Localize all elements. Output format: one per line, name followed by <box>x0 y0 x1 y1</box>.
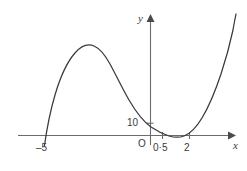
x-tick-label-neg-5: –5 <box>36 143 47 153</box>
y-axis-label: y <box>138 13 143 24</box>
origin-label: O <box>138 139 146 149</box>
cubic-graph-figure: y x O 10 0·5 2 –5 <box>0 0 247 171</box>
x-tick-label-0-5: 0·5 <box>153 143 167 153</box>
y-axis-arrowhead <box>147 14 155 22</box>
y-tick-label-10: 10 <box>127 118 138 128</box>
x-axis-label: x <box>233 140 238 151</box>
cubic-curve <box>45 14 237 146</box>
x-tick-label-2: 2 <box>184 143 190 153</box>
